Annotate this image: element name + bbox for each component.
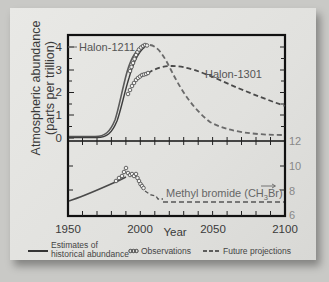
svg-text:0: 0	[56, 132, 62, 144]
y-axis-title-line1: Atmospheric abundance	[29, 21, 43, 156]
svg-text:3: 3	[56, 64, 62, 76]
svg-text:2100: 2100	[272, 223, 298, 235]
methyl-projection-short	[145, 191, 163, 199]
halon1211-label: Halon-1211	[79, 41, 135, 53]
svg-text:2000: 2000	[127, 223, 153, 235]
svg-text:2050: 2050	[200, 223, 226, 235]
x-ticks	[83, 137, 271, 216]
methyl-bromide-label: Methyl bromide (CH3Br)	[166, 187, 283, 202]
svg-text:1: 1	[56, 109, 62, 121]
svg-text:4: 4	[56, 41, 63, 53]
methyl-observations	[114, 166, 145, 190]
chart: Atmospheric abundance (parts per trillio…	[0, 0, 329, 282]
y-right-tick-labels: 12 10 8 6	[289, 135, 301, 221]
svg-text:6: 6	[289, 209, 295, 221]
svg-text:8: 8	[289, 185, 295, 197]
svg-text:Observations: Observations	[141, 246, 191, 256]
legend: Estimates of historical abundance Observ…	[28, 240, 291, 259]
x-axis-title: Year	[163, 226, 186, 238]
halon1211-projection-line	[150, 45, 285, 135]
svg-text:historical abundance: historical abundance	[51, 249, 129, 259]
legend-circles-icon	[129, 249, 138, 252]
svg-text:Future projections: Future projections	[223, 246, 291, 256]
svg-text:12: 12	[289, 135, 301, 147]
svg-text:1950: 1950	[55, 223, 81, 235]
svg-text:10: 10	[289, 160, 301, 172]
svg-text:2: 2	[56, 86, 62, 98]
halon1301-label: Halon-1301	[205, 68, 262, 80]
